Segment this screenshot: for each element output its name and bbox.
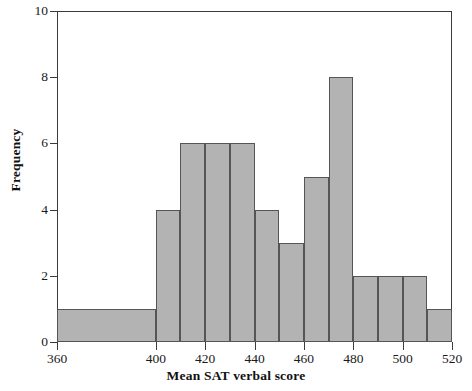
x-axis-tick-label: 360 [37, 352, 77, 366]
x-axis-title: Mean SAT verbal score [0, 368, 472, 384]
y-axis-tick [50, 210, 58, 211]
y-axis-tick [50, 276, 58, 277]
x-axis-tick [304, 342, 305, 350]
x-axis-tick [57, 342, 58, 350]
x-axis-tick [353, 342, 354, 350]
y-axis-tick-label: 0 [0, 335, 48, 349]
x-axis-tick-label: 400 [136, 352, 176, 366]
histogram-bar [205, 143, 230, 342]
y-axis-tick-label: 2 [0, 269, 48, 283]
histogram-bar [156, 210, 181, 342]
x-axis-tick [255, 342, 256, 350]
histogram-bar [255, 210, 280, 342]
y-axis-tick [50, 77, 58, 78]
histogram-bar [304, 177, 329, 343]
x-axis-tick [452, 342, 453, 350]
x-axis-tick-label: 520 [432, 352, 472, 366]
y-axis-tick-label: 10 [0, 4, 48, 18]
x-axis-tick-label: 440 [235, 352, 275, 366]
histogram-chart: 0246810 360400420440460480500520 Mean SA… [0, 0, 472, 391]
x-axis-tick-label: 460 [284, 352, 324, 366]
x-axis-tick [156, 342, 157, 350]
x-axis-tick-label: 500 [383, 352, 423, 366]
bars-layer [57, 11, 452, 342]
y-axis-tick-label: 8 [0, 70, 48, 84]
histogram-bar [57, 309, 156, 342]
histogram-bar [427, 309, 452, 342]
x-axis-tick-label: 480 [333, 352, 373, 366]
histogram-bar [403, 276, 428, 342]
x-axis-tick [205, 342, 206, 350]
x-axis-tick [403, 342, 404, 350]
histogram-bar [353, 276, 378, 342]
y-axis-title: Frequency [8, 100, 24, 220]
histogram-bar [329, 77, 354, 342]
y-axis-tick [50, 11, 58, 12]
histogram-bar [230, 143, 255, 342]
y-axis-tick [50, 143, 58, 144]
x-axis-tick-label: 420 [185, 352, 225, 366]
histogram-bar [378, 276, 403, 342]
histogram-bar [279, 243, 304, 342]
histogram-bar [180, 143, 205, 342]
